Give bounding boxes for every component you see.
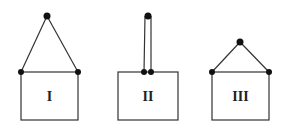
figure-3: III (209, 39, 272, 121)
nail-dot (237, 39, 244, 46)
string-right (47, 16, 78, 72)
nail-dot (145, 13, 152, 20)
figure-label: II (143, 89, 154, 104)
nail-dot (44, 13, 51, 20)
figure-label: III (232, 89, 248, 104)
attach-dot-right (148, 69, 154, 75)
string-right (240, 42, 269, 72)
string-left (212, 42, 240, 72)
string-left (21, 16, 47, 72)
figure-1: I (18, 13, 81, 121)
attach-dot-left (209, 69, 215, 75)
attach-dot-left (18, 69, 24, 75)
attach-dot-left (141, 69, 147, 75)
figure-label: I (47, 89, 52, 104)
figure-2: II (118, 13, 178, 121)
frames-diagram: I II III (0, 0, 287, 126)
attach-dot-right (266, 69, 272, 75)
attach-dot-right (75, 69, 81, 75)
string-left (144, 16, 145, 72)
